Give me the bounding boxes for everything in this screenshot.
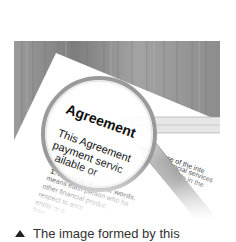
triangle-up-icon <box>15 230 25 237</box>
caption-text: The image formed by this <box>33 226 180 241</box>
agreement-photo: ns your use of the inte r financial serv… <box>14 41 220 219</box>
figure-caption: The image formed by this <box>15 225 180 241</box>
